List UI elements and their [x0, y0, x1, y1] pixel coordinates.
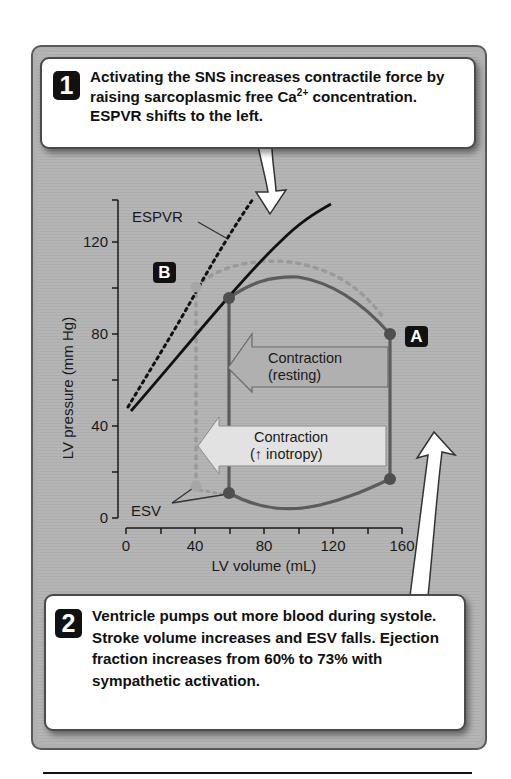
point-a-marker: [384, 328, 396, 340]
step-1-badge: 1: [53, 71, 80, 100]
x-tick-80: 80: [256, 537, 273, 554]
x-axis-title: LV volume (mL): [212, 557, 317, 574]
point-b-marker: [191, 282, 202, 293]
contraction-resting-line2: (resting): [268, 367, 342, 384]
y-tick-80: 80: [91, 325, 108, 342]
x-tick-40: 40: [187, 537, 204, 554]
contraction-resting-line1: Contraction: [268, 350, 342, 367]
x-tick-0: 0: [122, 537, 130, 554]
end-diastolic-lower-marker: [384, 473, 396, 485]
y-axis: [112, 200, 118, 518]
y-tick-120: 120: [83, 233, 108, 250]
espvr-label: ESPVR: [132, 208, 183, 225]
espvr-shifted-line: [128, 199, 253, 407]
contraction-inotropy-line1: Contraction: [250, 429, 328, 446]
pv-loop-resting: [229, 277, 390, 509]
callout-1-text: Activating the SNS increases contractile…: [90, 67, 470, 126]
end-systolic-resting-marker: [223, 292, 235, 304]
espvr-leader-line: [198, 222, 226, 238]
y-tick-40: 40: [91, 417, 108, 434]
contraction-inotropy-label: Contraction (↑ inotropy): [250, 429, 328, 463]
x-tick-120: 120: [320, 537, 345, 554]
esv-label: ESV: [131, 502, 161, 519]
bottom-divider: [43, 772, 472, 774]
point-b-badge: B: [153, 262, 176, 283]
calcium-charge-superscript: 2+: [297, 86, 308, 97]
esv-inotropy-marker: [191, 481, 202, 492]
callout-1-pointer-arrow: [256, 146, 286, 214]
callout-2-text: Ventricle pumps out more blood during sy…: [92, 605, 462, 691]
callout-2-pointer-arrow: [410, 432, 455, 596]
callout-1: 1 Activating the SNS increases contracti…: [40, 57, 476, 149]
contraction-inotropy-line2: (↑ inotropy): [250, 446, 328, 463]
x-tick-160: 160: [389, 537, 414, 554]
esv-connector-dots: [200, 490, 222, 494]
esv-resting-marker: [223, 487, 235, 499]
callout-2: 2 Ventricle pumps out more blood during …: [44, 594, 466, 731]
contraction-resting-label: Contraction (resting): [268, 350, 342, 384]
y-axis-title: LV pressure (mm Hg): [59, 317, 76, 459]
step-2-badge: 2: [55, 609, 82, 638]
x-axis: [126, 528, 402, 534]
y-tick-0: 0: [100, 509, 108, 526]
point-a-badge: A: [405, 326, 428, 347]
